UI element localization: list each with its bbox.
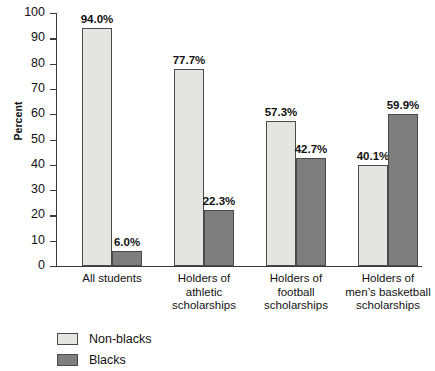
category-label-line: scholarships xyxy=(152,299,256,313)
category-label-line: All students xyxy=(57,272,167,286)
x-axis-category-label: All students xyxy=(57,272,167,286)
y-axis-tick-label: 40 xyxy=(31,158,45,171)
bar[interactable] xyxy=(296,158,326,266)
y-axis-tick-label: 20 xyxy=(31,208,45,221)
bar-group: 57.3%42.7% xyxy=(266,13,326,266)
bar[interactable] xyxy=(204,210,234,266)
legend-swatch xyxy=(57,333,78,345)
y-axis-tick-label: 10 xyxy=(31,234,45,247)
x-axis-line xyxy=(56,266,422,267)
y-axis-tick-label: 100 xyxy=(24,6,45,19)
x-axis-category-label: Holders ofathleticscholarships xyxy=(152,272,256,313)
legend-swatch xyxy=(57,354,78,366)
category-label-line: athletic xyxy=(152,286,256,300)
y-axis-tick-label: 30 xyxy=(31,183,45,196)
bar-value-label: 94.0% xyxy=(71,13,123,25)
bar-value-label: 22.3% xyxy=(193,195,245,207)
bar-value-label: 77.7% xyxy=(163,54,215,66)
category-label-line: scholarships xyxy=(324,299,435,313)
category-label-line: Holders of xyxy=(152,272,256,286)
y-axis-tick-label: 70 xyxy=(31,82,45,95)
y-axis-tick-mark xyxy=(50,266,56,267)
bar[interactable] xyxy=(112,251,142,266)
bar-group: 77.7%22.3% xyxy=(174,13,234,266)
plot-area: 94.0%6.0%77.7%22.3%57.3%42.7%40.1%59.9% xyxy=(56,13,422,266)
category-label-line: men’s basketball xyxy=(324,286,435,300)
y-axis-tick-label: 80 xyxy=(31,57,45,70)
y-axis-tick-label: 60 xyxy=(31,107,45,120)
y-axis-tick-label: 0 xyxy=(38,259,45,272)
bar[interactable] xyxy=(82,28,112,266)
legend-item[interactable]: Blacks xyxy=(57,351,152,369)
bar-value-label: 59.9% xyxy=(377,99,429,111)
category-label-line: Holders of xyxy=(324,272,435,286)
bar-value-label: 42.7% xyxy=(285,143,337,155)
y-axis-tick-label: 90 xyxy=(31,31,45,44)
y-axis-title: Percent xyxy=(12,81,24,161)
legend-item[interactable]: Non-blacks xyxy=(57,330,152,348)
bar-group: 94.0%6.0% xyxy=(82,13,142,266)
bar-value-label: 57.3% xyxy=(255,106,307,118)
legend: Non-blacksBlacks xyxy=(57,330,152,371)
legend-label: Non-blacks xyxy=(89,333,152,346)
bar[interactable] xyxy=(174,69,204,266)
bar[interactable] xyxy=(358,165,388,266)
bar-group: 40.1%59.9% xyxy=(358,13,418,266)
bar-value-label: 6.0% xyxy=(101,236,153,248)
y-axis-tick-label: 50 xyxy=(31,133,45,146)
bar[interactable] xyxy=(388,114,418,266)
x-axis-category-label: Holders ofmen’s basketballscholarships xyxy=(324,272,435,313)
legend-label: Blacks xyxy=(89,354,126,367)
